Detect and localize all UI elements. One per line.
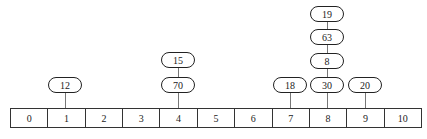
link-bucket1 [65, 93, 66, 108]
link-bucket4 [178, 93, 179, 108]
chain-node: 19 [310, 6, 344, 22]
bucket-9: 9 [347, 109, 384, 127]
link-bucket4-chain [178, 68, 179, 77]
bucket-5: 5 [198, 109, 235, 127]
chain-node: 63 [310, 29, 344, 45]
hash-table-array: 0 1 2 3 4 5 6 7 8 9 10 [10, 108, 422, 128]
chain-node: 8 [310, 53, 344, 69]
bucket-10: 10 [385, 109, 421, 127]
chain-node: 18 [273, 77, 307, 93]
link-bucket9 [365, 93, 366, 108]
link-bucket8 [327, 93, 328, 108]
bucket-2: 2 [86, 109, 123, 127]
bucket-6: 6 [235, 109, 272, 127]
chain-node: 15 [161, 52, 195, 68]
chain-node: 30 [310, 77, 344, 93]
chain-node: 70 [161, 77, 195, 93]
bucket-1: 1 [48, 109, 85, 127]
bucket-4: 4 [160, 109, 197, 127]
chain-node: 20 [348, 77, 382, 93]
bucket-7: 7 [273, 109, 310, 127]
bucket-0: 0 [11, 109, 48, 127]
bucket-3: 3 [123, 109, 160, 127]
bucket-8: 8 [310, 109, 347, 127]
link-bucket7 [290, 93, 291, 108]
chain-node: 12 [48, 77, 82, 93]
